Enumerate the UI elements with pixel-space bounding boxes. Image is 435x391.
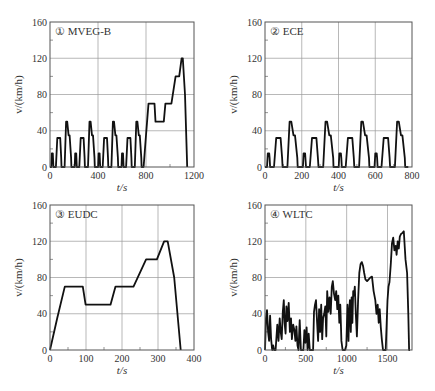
chart-panel-eudc: 040801201600100200300400t/sv/(km/h)③ EUD… bbox=[12, 200, 202, 377]
x-tick-label: 800 bbox=[405, 170, 420, 181]
x-tick-label: 400 bbox=[331, 170, 346, 181]
chart-panel-wltc: 04080120160050010001500t/sv/(km/h)④ WLTC bbox=[227, 200, 412, 377]
x-tick-label: 1200 bbox=[184, 170, 204, 181]
x-tick-label: 0 bbox=[48, 353, 53, 364]
x-tick-label: 400 bbox=[187, 353, 202, 364]
x-axis-label: t/s bbox=[117, 181, 127, 193]
figure: 0408012016004008001200t/sv/(km/h)① MVEG-… bbox=[0, 0, 435, 391]
panel-title: ③ EUDC bbox=[55, 208, 98, 220]
grid-lines bbox=[265, 22, 412, 167]
x-tick-label: 100 bbox=[79, 353, 94, 364]
y-tick-label: 0 bbox=[257, 162, 262, 173]
speed-profile-line bbox=[50, 241, 181, 350]
x-axis-label: t/s bbox=[333, 364, 343, 376]
y-tick-label: 40 bbox=[37, 125, 47, 136]
y-tick-label: 40 bbox=[37, 308, 47, 319]
y-tick-label: 120 bbox=[247, 236, 262, 247]
y-tick-label: 0 bbox=[257, 345, 262, 356]
x-tick-label: 600 bbox=[368, 170, 383, 181]
x-tick-label: 0 bbox=[263, 353, 268, 364]
chart-figure: 0408012016004008001200t/sv/(km/h)① MVEG-… bbox=[0, 0, 435, 391]
x-axis-label: t/s bbox=[117, 364, 127, 376]
y-tick-label: 40 bbox=[252, 125, 262, 136]
panel-title: ② ECE bbox=[270, 25, 304, 37]
y-tick-label: 80 bbox=[252, 272, 262, 283]
y-tick-label: 80 bbox=[252, 89, 262, 100]
x-tick-label: 400 bbox=[91, 170, 106, 181]
panel-title: ① MVEG-B bbox=[55, 25, 111, 37]
y-tick-label: 160 bbox=[32, 17, 47, 28]
y-tick-label: 120 bbox=[32, 53, 47, 64]
speed-profile-line bbox=[265, 122, 408, 167]
y-tick-label: 160 bbox=[32, 200, 47, 211]
speed-profile-line bbox=[265, 231, 410, 350]
y-tick-label: 0 bbox=[42, 345, 47, 356]
x-tick-label: 1500 bbox=[378, 353, 398, 364]
x-tick-label: 1000 bbox=[337, 353, 357, 364]
x-tick-label: 500 bbox=[298, 353, 313, 364]
x-tick-label: 0 bbox=[263, 170, 268, 181]
y-tick-label: 40 bbox=[252, 308, 262, 319]
y-tick-label: 120 bbox=[247, 53, 262, 64]
y-tick-label: 0 bbox=[42, 162, 47, 173]
chart-panel-mveg-b: 0408012016004008001200t/sv/(km/h)① MVEG-… bbox=[12, 17, 204, 194]
x-tick-label: 200 bbox=[294, 170, 309, 181]
x-axis-label: t/s bbox=[333, 181, 343, 193]
y-tick-label: 160 bbox=[247, 17, 262, 28]
y-tick-label: 80 bbox=[37, 272, 47, 283]
grid-lines bbox=[50, 205, 194, 350]
x-tick-label: 0 bbox=[48, 170, 53, 181]
y-axis-label: v/(km/h) bbox=[12, 75, 25, 114]
x-tick-label: 800 bbox=[139, 170, 154, 181]
y-axis-label: v/(km/h) bbox=[227, 258, 240, 297]
speed-profile-line bbox=[50, 58, 187, 167]
x-tick-label: 200 bbox=[115, 353, 130, 364]
y-axis-label: v/(km/h) bbox=[12, 258, 25, 297]
x-tick-label: 300 bbox=[151, 353, 166, 364]
y-tick-label: 120 bbox=[32, 236, 47, 247]
chart-panel-ece: 040801201600200400600800t/sv/(km/h)② ECE bbox=[227, 17, 420, 194]
y-axis-label: v/(km/h) bbox=[227, 75, 240, 114]
y-tick-label: 80 bbox=[37, 89, 47, 100]
panel-title: ④ WLTC bbox=[270, 208, 313, 220]
y-tick-label: 160 bbox=[247, 200, 262, 211]
